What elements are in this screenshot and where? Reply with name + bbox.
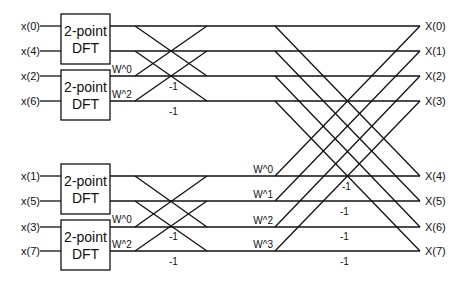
minus-one-label: -1 <box>169 256 178 267</box>
twiddle-label: W^0 <box>253 164 273 175</box>
minus-one-label: -1 <box>169 231 178 242</box>
fft-butterfly-diagram: x(0) x(4) x(2) x(6) x(1) x(5) x(3) x(7) … <box>0 0 464 282</box>
output-label: X(1) <box>425 45 446 57</box>
dft-label-line1: 2-point <box>64 173 107 189</box>
input-label: x(4) <box>21 45 40 57</box>
dft-label-line2: DFT <box>72 246 100 262</box>
output-label: X(2) <box>425 70 446 82</box>
output-label: X(5) <box>425 195 446 207</box>
input-label: x(7) <box>21 245 40 257</box>
input-label: x(1) <box>21 170 40 182</box>
dft-label-line1: 2-point <box>64 23 107 39</box>
dft-block-1 <box>61 14 110 64</box>
input-label: x(0) <box>21 20 40 32</box>
minus-one-label: -1 <box>340 206 349 217</box>
dft-label-line2: DFT <box>72 190 100 206</box>
output-label: X(4) <box>425 170 446 182</box>
output-label: X(0) <box>425 20 446 32</box>
dft-label-line1: 2-point <box>64 229 107 245</box>
dft-block-3 <box>61 164 110 214</box>
twiddle-label: W^2 <box>112 89 132 100</box>
output-label: X(7) <box>425 245 446 257</box>
minus-one-label: -1 <box>342 181 351 192</box>
dft-block-2 <box>61 70 110 120</box>
minus-one-label: -1 <box>340 231 349 242</box>
twiddle-label: W^2 <box>253 215 273 226</box>
minus-one-label: -1 <box>340 256 349 267</box>
dft-block-4 <box>61 220 110 270</box>
twiddle-label: W^0 <box>112 64 132 75</box>
input-label: x(5) <box>21 195 40 207</box>
dft-label-line2: DFT <box>72 96 100 112</box>
dft-label-line1: 2-point <box>64 79 107 95</box>
input-label: x(2) <box>21 70 40 82</box>
minus-one-label: -1 <box>169 106 178 117</box>
output-label: X(6) <box>425 221 446 233</box>
twiddle-label: W^1 <box>253 189 273 200</box>
twiddle-label: W^2 <box>112 239 132 250</box>
input-label: x(6) <box>21 95 40 107</box>
input-label: x(3) <box>21 221 40 233</box>
twiddle-label: W^3 <box>253 239 273 250</box>
dft-label-line2: DFT <box>72 40 100 56</box>
twiddle-label: W^0 <box>112 214 132 225</box>
minus-one-label: -1 <box>169 81 178 92</box>
output-label: X(3) <box>425 95 446 107</box>
